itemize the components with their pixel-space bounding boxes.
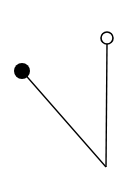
open-circle-node: [101, 32, 113, 44]
edge-filled-to-vertex: [22, 71, 106, 167]
diagram-canvas: [0, 0, 128, 189]
filled-circle-node: [14, 63, 30, 79]
edge-open-to-vertex: [106, 44, 107, 167]
